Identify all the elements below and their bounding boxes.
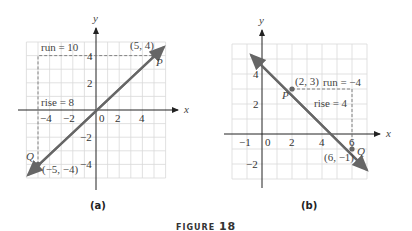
- panel-b-y-axis-label: y: [258, 14, 264, 26]
- panel-a: x y −4 −2 0 2 4 4 2 −2 −4 (5, 4) P (−5, …: [18, 12, 189, 190]
- panel-b-point-p-label: P: [281, 89, 289, 101]
- panel-a-point-q-label: Q: [26, 150, 34, 162]
- panel-b-rise-label: rise = 4: [314, 97, 348, 109]
- panel-b-x-tick: 2: [289, 136, 295, 148]
- panel-a-y-tick: −2: [80, 131, 92, 143]
- panel-a-x-tick: −4: [40, 112, 52, 124]
- figure-caption: FIGURE 18: [176, 220, 236, 231]
- panel-a-point-p-label: P: [155, 56, 163, 68]
- panel-a-y-tick: 4: [87, 50, 93, 62]
- panel-b-x-tick: 6: [349, 136, 355, 148]
- panel-b-x-tick: −1: [239, 136, 251, 148]
- panel-b-point-q-coords: (6, −1): [324, 151, 354, 164]
- panel-a-y-tick: 2: [87, 77, 93, 89]
- panel-a-y-tick: −4: [80, 158, 92, 170]
- panel-b-run-label: run = −4: [323, 76, 362, 88]
- panel-b-point-p: [289, 86, 294, 91]
- panel-a-x-tick: 2: [115, 112, 121, 124]
- panel-a-point-p-coords: (5, 4): [130, 39, 154, 52]
- figure-canvas: x y −4 −2 0 2 4 4 2 −2 −4 (5, 4) P (−5, …: [0, 0, 412, 231]
- panel-b-y-tick: 2: [253, 98, 259, 110]
- panel-a-point-q: [35, 162, 40, 167]
- panel-b-x-tick: 4: [319, 136, 325, 148]
- panel-a-caption: (a): [90, 200, 106, 211]
- panel-b-y-tick: 4: [253, 68, 259, 80]
- panel-a-x-axis-label: x: [183, 103, 189, 115]
- panel-b-y-tick: −2: [246, 158, 258, 170]
- panel-a-y-axis-label: y: [92, 12, 98, 24]
- panel-b-x-axis-label: x: [385, 127, 391, 139]
- panel-a-run-label: run = 10: [41, 41, 79, 53]
- panel-a-x-tick: −2: [63, 112, 75, 124]
- panel-a-rise-label: rise = 8: [41, 96, 75, 108]
- panel-b-caption: (b): [301, 200, 317, 211]
- panel-b-point-p-coords: (2, 3): [295, 75, 319, 88]
- panel-a-point-q-coords: (−5, −4): [42, 163, 79, 176]
- panel-b-x-tick: 0: [265, 136, 271, 148]
- panel-b-point-q-label: Q: [357, 145, 365, 157]
- panel-b: x y −1 0 2 4 6 4 2 −2 (2, 3) P (6, −1) Q…: [224, 14, 391, 188]
- panel-a-x-tick: 4: [139, 112, 145, 124]
- figure-label: FIGURE: [176, 223, 215, 231]
- figure-number: 18: [219, 220, 236, 231]
- panel-a-x-tick: 0: [99, 112, 105, 124]
